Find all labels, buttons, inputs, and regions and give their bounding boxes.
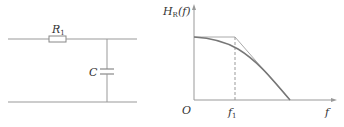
rc-lowpass-figure: R1 C HR(f) O f1 f: [0, 0, 344, 127]
capacitor-label: C: [89, 66, 98, 79]
x-axis-arrow-icon: [331, 98, 337, 102]
cutoff-label: f1: [227, 106, 237, 120]
x-axis-label: f: [324, 106, 331, 119]
resistor-label: R1: [51, 23, 65, 37]
frequency-response-graph: HR(f) O f1 f: [162, 4, 337, 120]
y-axis-arrow-icon: [192, 4, 196, 10]
origin-label: O: [182, 104, 191, 117]
asymptote-line: [194, 37, 290, 100]
rc-circuit: R1 C: [8, 23, 137, 102]
y-axis-label: HR(f): [162, 5, 191, 19]
response-curve: [194, 37, 290, 100]
